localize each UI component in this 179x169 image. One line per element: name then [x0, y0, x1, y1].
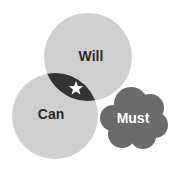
- will-can-must-diagram: Will Can Must: [0, 0, 179, 169]
- will-label: Will: [79, 48, 104, 64]
- must-label: Must: [117, 110, 150, 126]
- can-label: Can: [38, 106, 64, 122]
